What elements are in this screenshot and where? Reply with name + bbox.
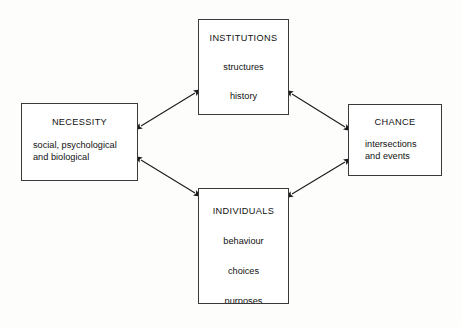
node-chance: CHANCE intersections and events — [348, 104, 442, 176]
node-necessity-line-2: and biological — [29, 152, 130, 164]
node-individuals-title: INDIVIDUALS — [204, 206, 283, 216]
node-chance-line-1: intersections — [355, 139, 435, 151]
node-individuals-line-3: purposes — [204, 296, 283, 304]
node-individuals: INDIVIDUALS behaviour choices purposes — [198, 188, 289, 304]
node-individuals-line-1: behaviour — [204, 236, 283, 246]
node-necessity-line-1: social, psychological — [29, 140, 130, 152]
connector-institutions-chance — [292, 94, 345, 127]
node-individuals-line-2: choices — [204, 266, 283, 276]
connector-necessity-individuals — [141, 160, 195, 193]
node-institutions: INSTITUTIONS structures history — [198, 19, 289, 115]
connector-necessity-institutions — [141, 93, 195, 126]
node-chance-title: CHANCE — [355, 117, 435, 127]
diagram-canvas: NECESSITY social, psychological and biol… — [0, 0, 461, 327]
node-institutions-title: INSTITUTIONS — [204, 33, 283, 43]
node-chance-line-2: and events — [355, 151, 435, 163]
node-necessity: NECESSITY social, psychological and biol… — [21, 103, 138, 181]
node-necessity-title: NECESSITY — [29, 117, 130, 127]
node-institutions-line-2: history — [204, 91, 283, 101]
node-institutions-line-1: structures — [204, 62, 283, 72]
connector-individuals-chance — [292, 162, 345, 194]
